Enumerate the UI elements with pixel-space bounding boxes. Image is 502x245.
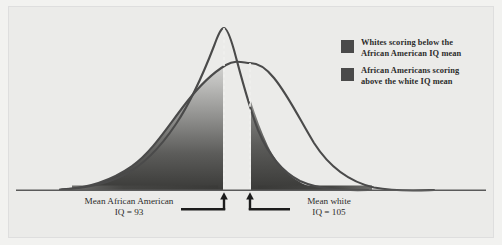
axis-label-mean-african-american: Mean African American IQ = 93 bbox=[64, 196, 194, 219]
legend-swatch-whites-below bbox=[341, 40, 354, 53]
legend-label-aa-above: African Americans scoring above the whit… bbox=[361, 66, 459, 87]
legend-swatch-african-americans-above bbox=[341, 68, 354, 81]
axis-label-left-line1: Mean African American bbox=[85, 196, 174, 206]
axis-label-right-line1: Mean white bbox=[307, 196, 351, 206]
legend-label-line1: African Americans scoring bbox=[361, 66, 459, 75]
shaded-region-whites-below-aa-mean bbox=[62, 61, 250, 190]
legend-label-whites-below: Whites scoring below the African America… bbox=[361, 38, 461, 59]
legend-label-line2: African American IQ mean bbox=[361, 49, 461, 60]
axis-label-mean-white: Mean white IQ = 105 bbox=[286, 196, 372, 219]
legend-label-line1: Whites scoring below the bbox=[361, 38, 453, 47]
chart-legend: Whites scoring below the African America… bbox=[341, 38, 496, 94]
legend-item-aa-above: African Americans scoring above the whit… bbox=[341, 66, 496, 87]
axis-label-left-value: IQ = 93 bbox=[64, 207, 194, 218]
shaded-region-aa-above-white-mean bbox=[224, 28, 356, 190]
axis-label-right-value: IQ = 105 bbox=[286, 207, 372, 218]
arrow-marker-white bbox=[246, 192, 290, 210]
legend-item-whites-below: Whites scoring below the African America… bbox=[341, 38, 496, 59]
legend-label-line2: above the white IQ mean bbox=[361, 77, 459, 88]
iq-distribution-figure: Whites scoring below the African America… bbox=[0, 0, 502, 245]
